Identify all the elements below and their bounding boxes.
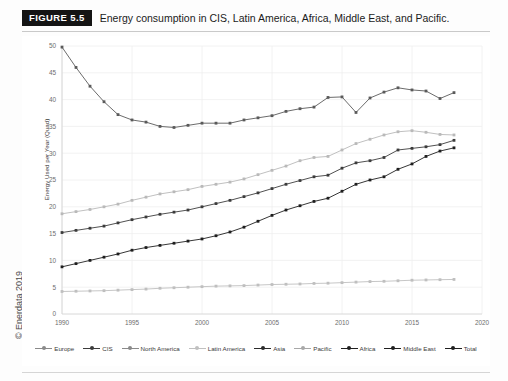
legend-marker-icon xyxy=(35,345,52,352)
svg-text:2020: 2020 xyxy=(475,319,490,326)
legend-item-africa[interactable]: Africa xyxy=(341,345,376,352)
title-divider xyxy=(22,31,490,32)
svg-text:2005: 2005 xyxy=(265,319,280,326)
svg-text:30: 30 xyxy=(49,150,57,157)
legend-marker-icon xyxy=(122,345,139,352)
svg-text:5: 5 xyxy=(52,284,56,291)
legend-marker-icon xyxy=(445,345,462,352)
svg-text:20: 20 xyxy=(49,203,57,210)
svg-text:2015: 2015 xyxy=(405,319,420,326)
legend-label: Pacific xyxy=(313,345,331,352)
svg-text:0: 0 xyxy=(52,310,56,317)
legend-label: Middle East xyxy=(403,345,435,352)
svg-text:45: 45 xyxy=(49,69,57,76)
svg-text:35: 35 xyxy=(49,123,57,130)
svg-text:25: 25 xyxy=(49,176,57,183)
figure-number-badge: FIGURE 5.5 xyxy=(22,10,92,26)
svg-text:50: 50 xyxy=(49,42,57,49)
figure-caption: Energy consumption in CIS, Latin America… xyxy=(100,12,450,24)
svg-text:2000: 2000 xyxy=(195,319,210,326)
legend-marker-icon xyxy=(254,345,271,352)
legend-marker-icon xyxy=(189,345,206,352)
svg-text:2010: 2010 xyxy=(335,319,350,326)
svg-text:1995: 1995 xyxy=(125,319,140,326)
legend-item-asia[interactable]: Asia xyxy=(254,345,285,352)
legend-item-pacific[interactable]: Pacific xyxy=(294,345,331,352)
legend-label: CIS xyxy=(102,345,112,352)
legend-label: Asia xyxy=(273,345,285,352)
legend-marker-icon xyxy=(83,345,100,352)
chart-legend: EuropeCISNorth AmericaLatin AmericaAsiaP… xyxy=(22,338,490,358)
chart-container: Energy Used per Year (Quad) 051015202530… xyxy=(22,36,490,366)
svg-text:10: 10 xyxy=(49,257,57,264)
plot-area: Energy Used per Year (Quad) 051015202530… xyxy=(22,36,490,336)
legend-item-middle-east[interactable]: Middle East xyxy=(384,345,435,352)
figure-page: FIGURE 5.5 Energy consumption in CIS, La… xyxy=(0,0,508,381)
svg-text:1990: 1990 xyxy=(55,319,70,326)
legend-item-europe[interactable]: Europe xyxy=(35,345,74,352)
legend-label: North America xyxy=(141,345,180,352)
legend-marker-icon xyxy=(294,345,311,352)
figure-title-row: FIGURE 5.5 Energy consumption in CIS, La… xyxy=(22,8,490,28)
bottom-divider xyxy=(22,372,490,373)
legend-item-north-america[interactable]: North America xyxy=(122,345,180,352)
legend-label: Latin America xyxy=(208,345,246,352)
legend-marker-icon xyxy=(384,345,401,352)
line-chart-svg: 0510152025303540455019901995200020052010… xyxy=(22,36,490,336)
legend-label: Total xyxy=(464,345,477,352)
legend-marker-icon xyxy=(341,345,358,352)
svg-text:15: 15 xyxy=(49,230,57,237)
legend-label: Africa xyxy=(360,345,376,352)
legend-item-total[interactable]: Total xyxy=(445,345,477,352)
legend-item-cis[interactable]: CIS xyxy=(83,345,112,352)
legend-item-latin-america[interactable]: Latin America xyxy=(189,345,246,352)
legend-label: Europe xyxy=(54,345,74,352)
svg-text:40: 40 xyxy=(49,96,57,103)
